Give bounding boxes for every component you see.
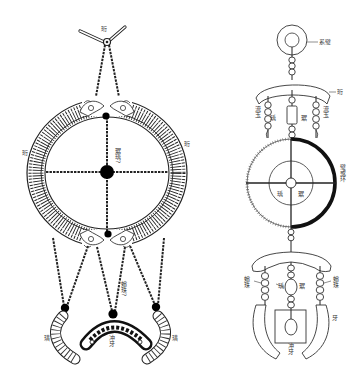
figure-canvas: 珩 珩 珩 <box>0 0 361 384</box>
label-ring-right: 珩 <box>184 140 190 147</box>
label-lower-right-tooth: 牙 <box>332 314 338 322</box>
label-ring-center-left: 瑀 <box>277 190 283 197</box>
bead-top <box>102 112 109 119</box>
chain-top-right <box>109 45 120 102</box>
label-upper-left-strand: 流玉 <box>255 105 262 118</box>
label-middle-ring: 璧或环 <box>340 163 347 183</box>
lower-right-strand <box>316 266 324 306</box>
chain-lower-left-outer <box>53 238 64 306</box>
label-upper-center-left: 瑀 <box>270 114 276 121</box>
beads-under-disc <box>289 57 295 75</box>
label-ring-left: 珩 <box>22 149 28 156</box>
chain-top-left <box>95 45 105 102</box>
bead-lower-right <box>152 303 160 311</box>
label-ring-center-right: 琚 <box>298 190 304 198</box>
label-lower-left-strand: 蠙珠 <box>244 275 251 289</box>
upper-right-strand <box>313 96 320 138</box>
label-center-bead: 琚瑀? <box>115 148 122 163</box>
bead-center <box>100 165 114 179</box>
bead-below-ring-1 <box>288 229 294 235</box>
lower-left-strand <box>261 266 269 306</box>
chain-lower-center-left <box>97 247 112 311</box>
chain-lower-right-inner <box>130 246 155 305</box>
label-lower-right-strand: 蠙珠 <box>333 275 340 289</box>
center-arc-pendant <box>86 327 146 345</box>
leader-lower-right <box>324 281 331 283</box>
label-upper-right-strand: 流玉 <box>323 105 330 118</box>
pendant-left <box>56 316 75 359</box>
bead-below-ring-2 <box>288 235 294 241</box>
bead-lower-center <box>108 309 117 318</box>
bottom-square-pendant <box>275 310 306 343</box>
label-upper-center-right: 琚 <box>301 114 307 122</box>
chain-lower-right-outer <box>158 238 164 305</box>
label-lower-center-right: 琚 <box>299 282 305 290</box>
middle-ring <box>246 139 336 227</box>
label-lower-bead: 蠙珠? <box>121 280 128 296</box>
right-diagram: 系璧 珩 <box>244 25 347 359</box>
leader-lower-left <box>254 281 261 283</box>
chain-lower-left-inner <box>67 246 88 306</box>
label-bottom-center: 冲牙 <box>288 342 295 356</box>
label-upper-arch: 珩 <box>337 88 343 95</box>
label-bottom-center: 冲牙 <box>109 334 116 348</box>
label-pendant-right: 璜 <box>172 334 178 342</box>
label-lower-center-left: 瑀 <box>278 282 284 289</box>
label-pendant-left: 璜 <box>44 334 50 342</box>
pendant-right <box>147 316 166 359</box>
jade-pendant-figure: 珩 珩 珩 <box>0 0 361 384</box>
chain-lower-center-right <box>115 247 125 311</box>
bead-bottom <box>104 230 111 237</box>
label-top-disc: 系璧 <box>319 38 331 45</box>
label-top-connector: 珩 <box>101 25 107 32</box>
upper-center-strand <box>287 90 297 139</box>
left-diagram: 珩 珩 珩 <box>22 25 190 359</box>
